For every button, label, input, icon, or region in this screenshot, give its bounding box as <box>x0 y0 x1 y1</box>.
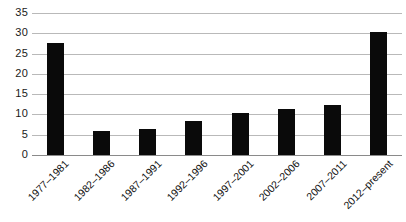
x-axis-tick-labels: 1977–19811982–19861987–19911992–19961997… <box>32 156 402 222</box>
y-tick-label-20: 20 <box>4 68 28 79</box>
y-tick-label-15: 15 <box>4 88 28 99</box>
bar <box>93 131 110 155</box>
y-tick-label-5: 5 <box>4 129 28 140</box>
y-tick-label-10: 10 <box>4 108 28 119</box>
bar <box>185 121 202 155</box>
bar-chart: 05101520253035 1977–19811982–19861987–19… <box>0 0 406 222</box>
y-tick-label-25: 25 <box>4 48 28 59</box>
y-axis-tick-labels: 05101520253035 <box>0 13 28 155</box>
y-tick-label-30: 30 <box>4 27 28 38</box>
bar <box>278 109 295 155</box>
bar <box>370 32 387 155</box>
bar <box>139 129 156 155</box>
y-tick-label-0: 0 <box>4 149 28 160</box>
bar <box>232 113 249 155</box>
bar <box>47 43 64 155</box>
bar <box>324 105 341 155</box>
y-tick-label-35: 35 <box>4 7 28 18</box>
bars-layer <box>32 13 402 155</box>
